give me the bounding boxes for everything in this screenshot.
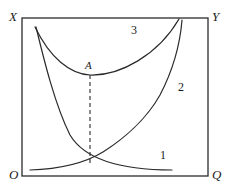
curve-2 [36, 27, 172, 170]
axis-label-q: Q [212, 168, 221, 181]
point-label-a: A [85, 60, 92, 71]
curve-label-2: 2 [178, 81, 184, 93]
curve-label-1: 1 [160, 149, 166, 161]
curve-3 [35, 19, 179, 75]
axis-label-x: X [9, 10, 17, 23]
plot-canvas [0, 0, 236, 196]
plot-frame [22, 18, 208, 176]
curve-label-3: 3 [131, 24, 137, 36]
axis-label-origin: O [9, 168, 18, 181]
cost-curve-figure: X Y O Q A 1 2 3 [0, 0, 236, 196]
axis-label-y: Y [212, 10, 219, 23]
